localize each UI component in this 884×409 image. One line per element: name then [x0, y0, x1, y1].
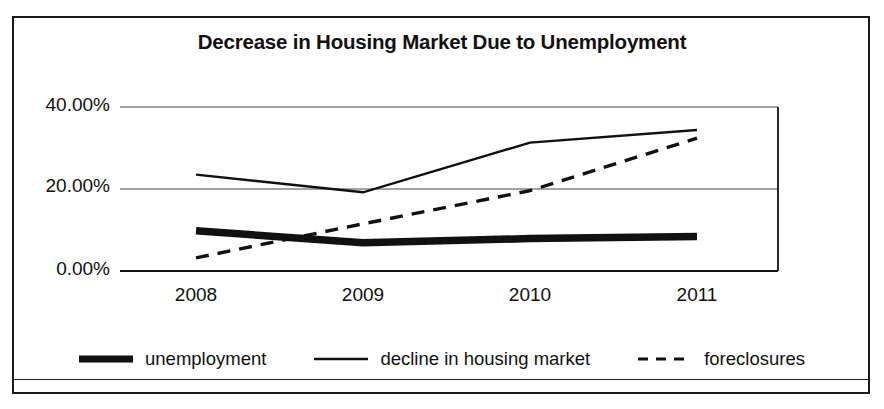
x-axis-tick-2011: 2011 [637, 284, 757, 306]
legend-item-foreclosures: foreclosures [636, 348, 805, 370]
chart-figure: Decrease in Housing Market Due to Unempl… [0, 0, 884, 409]
y-axis-tick-40: 40.00% [10, 94, 110, 116]
legend-swatch-thin-solid-icon [312, 353, 370, 365]
x-axis-tick-2009: 2009 [303, 284, 423, 306]
legend-item-decline-in-housing-market: decline in housing market [312, 348, 590, 370]
y-axis-tick-20: 20.00% [10, 175, 110, 197]
legend-label-decline-in-housing-market: decline in housing market [380, 348, 590, 370]
legend-swatch-thick-solid-icon [77, 353, 135, 365]
legend-swatch-dashed-icon [636, 353, 694, 365]
series-line-decline-in-housing-market [196, 130, 697, 192]
legend-label-unemployment: unemployment [145, 348, 266, 370]
legend-divider [14, 379, 868, 380]
legend-label-foreclosures: foreclosures [704, 348, 805, 370]
chart-legend: unemployment decline in housing market f… [12, 342, 870, 376]
x-axis-tick-2010: 2010 [470, 284, 590, 306]
x-axis-tick-2008: 2008 [136, 284, 256, 306]
legend-item-unemployment: unemployment [77, 348, 266, 370]
y-axis-tick-0: 0.00% [10, 258, 110, 280]
